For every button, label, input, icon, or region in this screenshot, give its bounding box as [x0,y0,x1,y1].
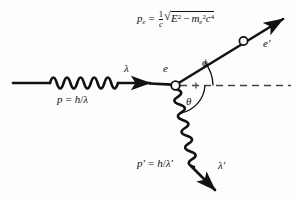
scattered-photon-wavelength-label: λ′ [218,160,225,171]
formula-minus: − [183,12,189,24]
formula-p-subscript: e [143,18,146,25]
scattered-photon-wave [174,89,195,167]
scattered-electron-line [177,19,283,84]
formula-fraction: 1c [159,10,163,28]
formula-E-exponent: 2 [178,13,181,20]
scattered-photon-momentum-label: p′=h/λ′ [137,158,173,169]
electron-marker-circle [239,37,247,45]
formula-frac-numerator: 1 [159,10,163,19]
electron-vertex-label: e [163,63,168,74]
p-in-equals: = [66,93,72,105]
lambda-prime-mark: ′ [223,159,225,171]
scattered-electron-label: e′ [263,38,270,49]
electron-momentum-formula: pe=1c√E2−me2c4 [137,10,214,28]
formula-radical: √E2−me2c4 [164,11,214,26]
compton-scattering-figure: pe=1c√E2−me2c4 e′ λ e ϕ θ p=h/λ p′=h/λ′ … [0,0,296,201]
formula-frac-denominator: c [159,19,163,29]
angle-phi-label: ϕ [202,57,208,68]
scattered-electron-prime: ′ [268,37,270,49]
formula-radicand: E2−me2c4 [171,11,214,26]
p-out-equals: = [148,157,154,169]
incoming-photon-to-vertex [150,84,172,85]
radical-sign-icon: √ [164,10,171,22]
formula-c-exponent: 4 [211,13,214,20]
incoming-photon-wavelength-label: λ [124,63,129,74]
diagram-canvas [0,0,296,201]
p-out-lambda-prime: ′ [170,157,172,169]
p-in-symbol: p [57,93,63,105]
p-in-lambda: λ [83,93,88,105]
incoming-photon-wave [50,78,118,89]
p-out-prime: ′ [143,157,145,169]
scattered-photon-arrow [191,166,215,190]
formula-E: E [171,12,178,24]
formula-equals: = [149,12,155,24]
angle-theta-label: θ [186,96,191,107]
interaction-vertex-circle [171,81,180,90]
incoming-photon-momentum-label: p=h/λ [57,94,88,105]
